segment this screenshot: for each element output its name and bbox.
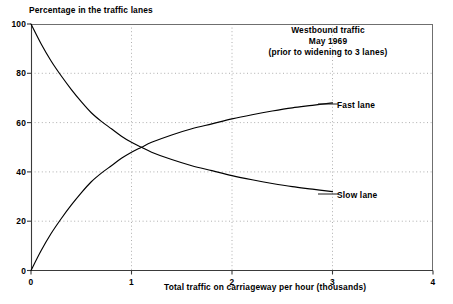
y-tick-label: 80	[2, 68, 26, 78]
y-tick-label: 0	[2, 266, 26, 276]
series-label-fast-lane: Fast lane	[337, 100, 375, 110]
axis-tick-marks	[27, 24, 433, 275]
x-tick-label: 1	[125, 277, 139, 287]
y-tick-label: 20	[2, 216, 26, 226]
x-tick-label: 3	[326, 277, 340, 287]
annotation-line-2: May 1969	[237, 36, 419, 47]
y-tick-label: 40	[2, 167, 26, 177]
chart-annotation-block: Westbound traffic May 1969 (prior to wid…	[237, 25, 419, 58]
label-leader-lines	[318, 104, 338, 194]
x-tick-label: 2	[225, 277, 239, 287]
data-series	[31, 24, 333, 271]
gridlines	[31, 24, 433, 271]
y-tick-label: 60	[2, 118, 26, 128]
x-tick-label: 4	[426, 277, 440, 287]
series-label-slow-lane: Slow lane	[337, 190, 377, 200]
annotation-line-3: (prior to widening to 3 lanes)	[237, 47, 419, 58]
annotation-line-1: Westbound traffic	[237, 25, 419, 36]
y-axis-title: Percentage in the traffic lanes	[29, 6, 153, 15]
traffic-lane-percentage-chart: Percentage in the traffic lanes Total tr…	[0, 0, 453, 304]
y-tick-label: 100	[2, 19, 26, 29]
series-curve-fast-lane	[31, 103, 333, 271]
x-tick-label: 0	[24, 277, 38, 287]
